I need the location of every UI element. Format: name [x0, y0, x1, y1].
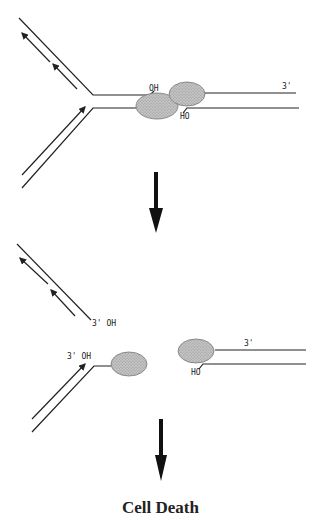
cell-death-label: Cell Death — [0, 498, 321, 518]
lower-arm-strand — [22, 108, 137, 188]
upper-broken-strand — [17, 244, 91, 320]
label-oh: OH — [149, 84, 159, 93]
topoisomerase-protein-upper — [169, 82, 205, 106]
protein-bound-right-duplex — [178, 339, 214, 363]
upper-nascent-arrow-1 — [22, 33, 50, 62]
label-3prime: 3' — [282, 82, 292, 91]
label-ho: HO — [180, 112, 190, 121]
dna-cleavage-diagram: OH HO 3' 3' OH 3' OH HO 3' — [0, 0, 321, 528]
lower-nascent-arrow — [22, 107, 85, 175]
upper-nascent-arrow-2 — [53, 64, 77, 89]
label-ho-b: HO — [191, 368, 201, 377]
lower-broken-arrow — [32, 364, 85, 419]
right-lower-strand-b — [199, 364, 306, 369]
label-3prime-oh-upper: 3' OH — [92, 319, 116, 328]
right-lower-strand — [183, 108, 299, 113]
protein-bound-lower-fork — [111, 352, 147, 376]
label-3prime-oh-lower: 3' OH — [67, 352, 91, 361]
upper-broken-arrow-2 — [51, 290, 75, 316]
down-arrow-2 — [155, 419, 167, 481]
down-arrow-1 — [149, 172, 163, 233]
upper-arm-strand — [19, 18, 154, 95]
lower-broken-strand — [32, 366, 111, 432]
bottom-broken-fork — [17, 244, 306, 432]
label-3prime-b: 3' — [244, 339, 254, 348]
